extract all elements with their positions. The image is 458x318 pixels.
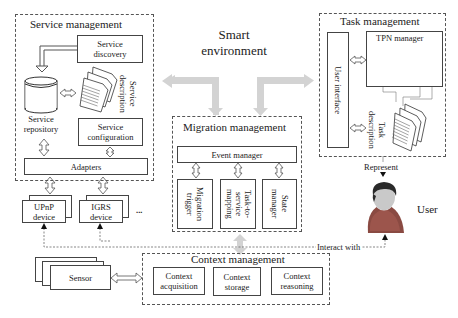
more-devices-ellipsis: ... — [136, 205, 142, 215]
big-arrow-left — [162, 74, 223, 116]
context-storage-box: Context storage — [213, 267, 261, 296]
user-label: User — [417, 203, 438, 215]
context-reasoning-line2: reasoning — [280, 281, 313, 291]
state-manager-line2: manager — [270, 189, 280, 218]
migration-trigger-box: Migration trigger — [177, 179, 213, 229]
task-management-title: Task management — [340, 15, 420, 27]
igrs-device-box: IGRS device — [79, 200, 123, 223]
big-arrow-right — [253, 74, 314, 116]
big-arrow-vertical — [233, 234, 247, 255]
task-mapping-line2: service — [234, 192, 244, 216]
task-mapping-line3: mapping — [225, 189, 235, 219]
context-management-title: Context management — [191, 253, 285, 265]
smart-environment-line1: Smart — [196, 27, 272, 43]
smart-environment-label: Smart environment — [196, 27, 272, 59]
adapters-box: Adapters — [24, 158, 148, 175]
service-repository-line2: repository — [20, 124, 62, 134]
task-description-line2: description — [367, 111, 377, 149]
service-discovery-line2: discovery — [93, 49, 126, 59]
upnp-device-line2: device — [33, 212, 55, 222]
context-acquisition-box: Context acquisition — [153, 267, 205, 295]
service-configuration-box: Service configuration — [78, 118, 143, 146]
upnp-device-box: UPnP device — [22, 200, 66, 223]
service-description-label: Service description — [118, 72, 138, 116]
user-interface-box: User interface — [327, 32, 349, 148]
context-storage-line1: Context — [224, 272, 251, 282]
represent-label: Represent — [364, 162, 398, 172]
tpn-manager-title: TPN manager — [376, 33, 423, 43]
service-management-title: Service management — [30, 18, 122, 30]
service-description-line1: Service — [128, 81, 138, 107]
service-discovery-box: Service discovery — [77, 35, 143, 63]
task-description-line1: Task — [377, 122, 387, 138]
smart-environment-line2: environment — [196, 43, 272, 59]
state-manager-line1: State — [280, 195, 290, 212]
migration-management-title: Migration management — [183, 121, 286, 133]
task-description-label: Task description — [367, 108, 387, 152]
task-to-service-mapping-box: Task-to- service mapping — [220, 179, 256, 229]
service-description-line2: description — [118, 75, 128, 113]
service-configuration-line1: Service — [98, 122, 124, 132]
state-manager-box: State manager — [262, 179, 297, 229]
task-mapping-line1: Task-to- — [243, 190, 253, 218]
migration-trigger-line1: Migration — [195, 187, 205, 221]
service-configuration-line2: configuration — [88, 132, 134, 142]
migration-trigger-line2: trigger — [185, 193, 195, 216]
context-acquisition-line2: acquisition — [160, 281, 197, 291]
service-discovery-line1: Service — [97, 39, 123, 49]
context-reasoning-box: Context reasoning — [271, 267, 323, 295]
event-manager-box: Event manager — [177, 146, 297, 163]
igrs-device-line2: device — [90, 212, 112, 222]
service-repository-line1: Service — [20, 114, 62, 124]
sensor-box: Sensor — [50, 265, 111, 290]
context-acquisition-line1: Context — [166, 271, 193, 281]
interact-with-label: Interact with — [316, 242, 361, 252]
context-reasoning-line1: Context — [284, 271, 311, 281]
upnp-device-line1: UPnP — [34, 202, 54, 212]
user-interface-label: User interface — [333, 66, 343, 114]
service-repository-label: Service repository — [20, 114, 62, 134]
user-avatar — [368, 182, 404, 233]
context-storage-line2: storage — [225, 282, 250, 292]
double-arrow-sensor-context — [111, 273, 142, 283]
igrs-device-line1: IGRS — [91, 202, 110, 212]
